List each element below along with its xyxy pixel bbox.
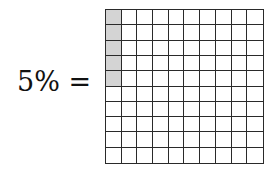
grid-cell xyxy=(153,41,169,56)
grid-cell xyxy=(153,132,169,147)
grid-cell xyxy=(216,25,232,40)
grid-cell xyxy=(153,117,169,132)
grid-cell xyxy=(200,117,216,132)
grid-cell xyxy=(122,56,138,71)
grid-cell xyxy=(137,71,153,86)
grid-cell xyxy=(200,10,216,25)
grid-cell xyxy=(184,10,200,25)
grid-cell xyxy=(232,41,248,56)
grid-cell xyxy=(247,25,263,40)
grid-cell xyxy=(216,87,232,102)
grid-cell xyxy=(247,71,263,86)
grid-cell xyxy=(122,87,138,102)
grid-cell xyxy=(122,10,138,25)
grid-cell xyxy=(200,87,216,102)
grid-cell xyxy=(153,10,169,25)
grid-cell xyxy=(216,117,232,132)
hundred-square-grid xyxy=(105,9,264,164)
grid-cell xyxy=(169,71,185,86)
grid-cell xyxy=(184,71,200,86)
grid-cell xyxy=(169,87,185,102)
grid-cell xyxy=(122,132,138,147)
grid-cell xyxy=(184,41,200,56)
grid-cell-shaded xyxy=(106,10,122,25)
grid-cell xyxy=(169,132,185,147)
grid-cell-shaded xyxy=(106,41,122,56)
grid-cell xyxy=(216,148,232,163)
grid-cell xyxy=(122,102,138,117)
grid-cell xyxy=(200,41,216,56)
grid-cell xyxy=(137,132,153,147)
percent-equation-label: 5% = xyxy=(17,66,91,97)
grid-cell xyxy=(137,56,153,71)
grid-cell xyxy=(200,25,216,40)
grid-cell xyxy=(122,148,138,163)
grid-cell xyxy=(169,25,185,40)
grid-cell xyxy=(247,102,263,117)
grid-cell xyxy=(247,132,263,147)
grid-cell xyxy=(216,56,232,71)
grid-cell xyxy=(247,148,263,163)
grid-cell-shaded xyxy=(106,25,122,40)
grid-cell xyxy=(247,56,263,71)
grid-cell xyxy=(169,10,185,25)
grid-cell xyxy=(184,25,200,40)
grid-cell xyxy=(153,148,169,163)
grid-cell xyxy=(184,102,200,117)
grid-cell xyxy=(247,117,263,132)
grid-cell xyxy=(200,132,216,147)
grid-cell xyxy=(106,87,122,102)
grid-cell xyxy=(169,148,185,163)
grid-cell xyxy=(232,25,248,40)
grid-cell xyxy=(232,117,248,132)
grid-cell xyxy=(137,102,153,117)
grid-cell xyxy=(153,71,169,86)
grid-cell xyxy=(169,56,185,71)
grid-cell xyxy=(184,148,200,163)
grid-cell xyxy=(232,87,248,102)
grid-cell xyxy=(122,117,138,132)
grid-cell xyxy=(200,148,216,163)
grid-cell xyxy=(200,102,216,117)
grid-cell xyxy=(184,87,200,102)
grid-cell-shaded xyxy=(106,56,122,71)
grid-cell xyxy=(247,87,263,102)
grid-cell xyxy=(153,102,169,117)
grid-cell xyxy=(153,56,169,71)
grid-cell xyxy=(216,10,232,25)
grid-cell xyxy=(106,102,122,117)
grid-cell xyxy=(137,41,153,56)
grid-cell xyxy=(184,56,200,71)
grid-cell xyxy=(184,117,200,132)
grid-cell xyxy=(232,148,248,163)
grid-cell xyxy=(122,71,138,86)
grid-cell xyxy=(106,117,122,132)
grid-cell xyxy=(153,25,169,40)
grid-cell xyxy=(232,56,248,71)
grid-cell xyxy=(169,41,185,56)
grid-cell xyxy=(232,132,248,147)
grid-cell xyxy=(232,71,248,86)
grid-cell xyxy=(122,41,138,56)
grid-cell xyxy=(137,25,153,40)
grid-cell xyxy=(216,41,232,56)
grid-cell xyxy=(216,102,232,117)
grid-cell xyxy=(137,10,153,25)
grid-cell-shaded xyxy=(106,71,122,86)
grid-cell xyxy=(169,102,185,117)
grid-cell xyxy=(184,132,200,147)
grid-cell xyxy=(216,132,232,147)
grid-cell xyxy=(153,87,169,102)
grid-cell xyxy=(106,148,122,163)
grid-cell xyxy=(232,10,248,25)
grid-cell xyxy=(200,56,216,71)
grid-cell xyxy=(169,117,185,132)
grid-cell xyxy=(137,87,153,102)
grid-cell xyxy=(232,102,248,117)
grid-cell xyxy=(247,41,263,56)
grid-cell xyxy=(216,71,232,86)
grid-cell xyxy=(122,25,138,40)
grid-cell xyxy=(106,132,122,147)
grid-cell xyxy=(247,10,263,25)
grid-cell xyxy=(200,71,216,86)
